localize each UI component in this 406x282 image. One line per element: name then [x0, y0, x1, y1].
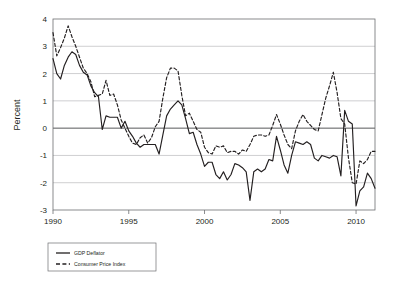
y-axis-ticks: 43210-1-2-3	[40, 15, 48, 215]
x-tick-label: 2005	[271, 217, 289, 226]
y-tick-label: 0	[43, 124, 48, 133]
y-axis-title: Percent	[12, 99, 22, 131]
chart-legend: GDP DeflatorConsumer Price Index	[48, 243, 156, 271]
y-tick-label: -3	[40, 206, 48, 215]
x-axis-ticks: 19901995200020052010	[44, 210, 365, 226]
legend-label: GDP Deflator	[74, 250, 105, 256]
x-tick-label: 1995	[120, 217, 138, 226]
y-tick-label: 2	[43, 70, 48, 79]
y-tick-label: 4	[43, 15, 48, 24]
x-tick-label: 2010	[347, 217, 365, 226]
y-tick-label: 1	[43, 97, 48, 106]
legend-label: Consumer Price Index	[74, 261, 126, 267]
y-tick-label: -1	[40, 151, 48, 160]
x-tick-label: 1990	[44, 217, 62, 226]
y-tick-label: 3	[43, 42, 48, 51]
chart-figure: 19901995200020052010 43210-1-2-3 Percent…	[0, 0, 406, 282]
x-tick-label: 2000	[196, 217, 214, 226]
y-tick-label: -2	[40, 179, 48, 188]
plot-background	[53, 19, 375, 210]
chart-canvas: 19901995200020052010 43210-1-2-3 Percent…	[0, 0, 406, 282]
